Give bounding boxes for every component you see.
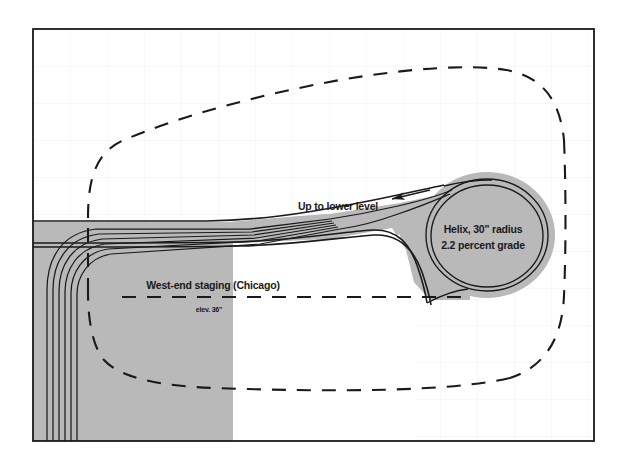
- track-plan-canvas: Up to lower level Helix, 30" radius 2.2 …: [0, 0, 626, 465]
- label-staging-elevation: elev. 36": [196, 306, 222, 313]
- label-helix-radius: Helix, 30" radius: [444, 223, 523, 235]
- label-up-to-lower-level: Up to lower level: [298, 200, 378, 212]
- label-west-end-staging: West-end staging (Chicago): [146, 279, 279, 291]
- roadbed-interior-cutout: [233, 228, 416, 465]
- label-helix-grade: 2.2 percent grade: [441, 239, 525, 251]
- track-plan-figure: Up to lower level Helix, 30" radius 2.2 …: [0, 0, 626, 465]
